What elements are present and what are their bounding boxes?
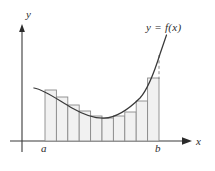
figure-canvas [0, 0, 215, 171]
riemann-bar [56, 97, 67, 141]
riemann-bar [113, 116, 124, 141]
riemann-rectangles [45, 78, 159, 141]
x-axis-label: x [196, 135, 201, 147]
function-label: y = f(x) [146, 21, 181, 33]
riemann-bar [91, 116, 102, 141]
left-endpoint-label: a [41, 142, 47, 154]
riemann-sum-figure: y x a b y = f(x) [0, 0, 215, 171]
riemann-bar [125, 112, 136, 141]
y-axis [19, 24, 25, 152]
right-endpoint-label: b [155, 142, 161, 154]
riemann-bar [102, 118, 113, 141]
riemann-bar [148, 78, 159, 141]
y-axis-label: y [26, 8, 31, 20]
riemann-bar [136, 101, 147, 141]
